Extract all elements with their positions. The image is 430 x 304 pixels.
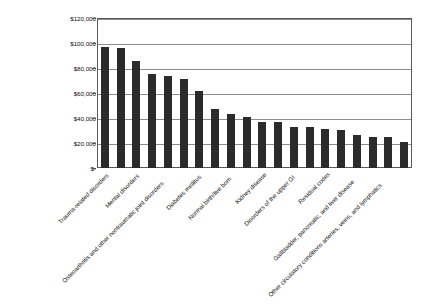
bar bbox=[211, 109, 219, 168]
bar bbox=[321, 129, 329, 168]
y-axis-tick-mark bbox=[92, 93, 96, 94]
y-axis-tick-label: $40,000 bbox=[48, 115, 96, 122]
bar bbox=[243, 117, 251, 168]
x-axis-tick-label: Trauma-related disorders bbox=[56, 172, 109, 225]
y-axis-tick-mark bbox=[92, 118, 96, 119]
y-axis-tick-label: $120,000 bbox=[48, 15, 96, 22]
y-axis-tick-label: $20,000 bbox=[48, 140, 96, 147]
y-axis-tick-label: $60,000 bbox=[48, 90, 96, 97]
y-axis-tick-label: $100,000 bbox=[48, 40, 96, 47]
y-axis-tick-mark bbox=[92, 18, 96, 19]
bar bbox=[369, 137, 377, 168]
bar bbox=[290, 127, 298, 168]
bar-series bbox=[97, 18, 412, 168]
bar bbox=[400, 142, 408, 168]
x-axis-tick-label: Residual codes bbox=[297, 171, 331, 205]
bar-chart: $120,000$100,000$80,000$60,000$40,000$20… bbox=[0, 0, 430, 304]
bar bbox=[306, 127, 314, 168]
bar bbox=[353, 135, 361, 168]
bar bbox=[337, 130, 345, 168]
bar bbox=[101, 47, 109, 168]
y-axis-tick-mark bbox=[92, 43, 96, 44]
y-axis-tick-label: $80,000 bbox=[48, 65, 96, 72]
x-axis-tick-label: Other circulatory conditions arteries, v… bbox=[267, 182, 383, 298]
x-axis: Trauma-related disordersMental disorders… bbox=[0, 168, 430, 304]
bar bbox=[164, 76, 172, 169]
bar bbox=[132, 61, 140, 169]
bar bbox=[384, 137, 392, 168]
y-axis-tick-mark bbox=[92, 143, 96, 144]
bar bbox=[258, 122, 266, 168]
bar bbox=[148, 74, 156, 168]
bar bbox=[180, 79, 188, 168]
bar bbox=[117, 48, 125, 168]
bar bbox=[195, 91, 203, 169]
bar bbox=[227, 114, 235, 168]
y-axis-tick-mark bbox=[92, 68, 96, 69]
y-axis: $120,000$100,000$80,000$60,000$40,000$20… bbox=[48, 10, 96, 176]
bar bbox=[274, 122, 282, 168]
